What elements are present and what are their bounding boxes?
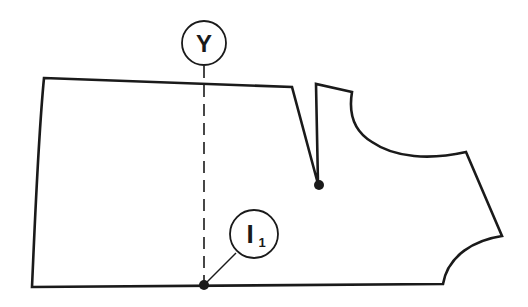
label-y-marker: Y xyxy=(182,21,226,65)
label-i1-subscript: 1 xyxy=(258,235,265,250)
label-i1-marker: I 1 xyxy=(205,210,278,284)
pattern-diagram: Y I 1 xyxy=(0,0,528,307)
label-i1-main: I xyxy=(246,219,253,249)
dart-apex-point xyxy=(314,180,324,190)
label-i1-circle xyxy=(230,210,278,258)
pattern-outline xyxy=(32,78,502,287)
label-y-text: Y xyxy=(196,30,212,57)
label-i1-leader xyxy=(205,253,236,284)
